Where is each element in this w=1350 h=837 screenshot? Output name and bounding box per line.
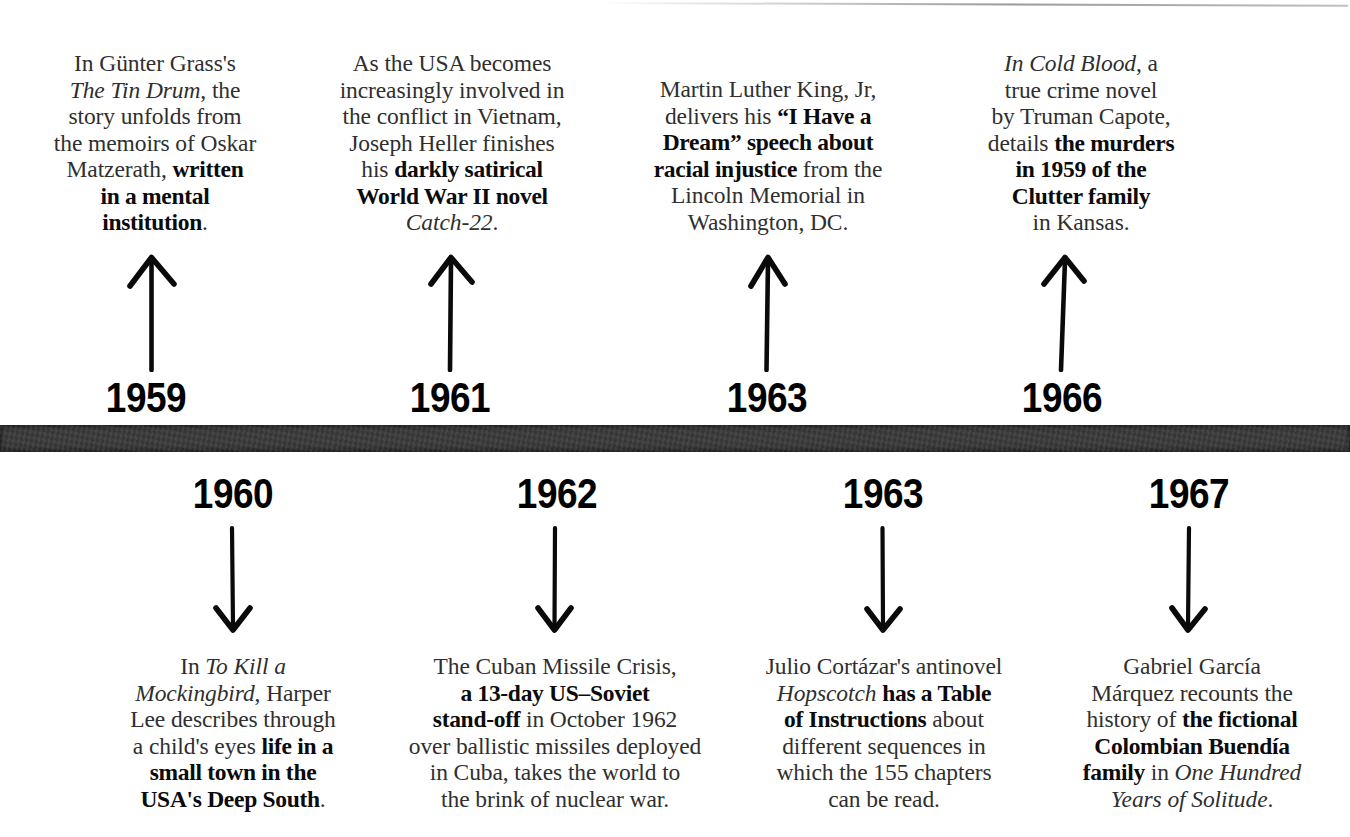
year-label-1959: 1959 — [93, 377, 199, 419]
up-arrow-icon-1963 — [740, 254, 796, 372]
down-arrow-icon-1967 — [1161, 524, 1217, 634]
entry-text-1959: In Günter Grass'sThe Tin Drum, thestory … — [30, 50, 280, 236]
entry-text-1967: Gabriel GarcíaMárquez recounts thehistor… — [1052, 653, 1332, 812]
entry-text-1963-below: Julio Cortázar's antinovelHopscotch has … — [748, 653, 1020, 812]
down-arrow-icon-1960 — [205, 524, 261, 634]
entry-text-1962: The Cuban Missile Crisis,a 13-day US–Sov… — [400, 653, 710, 812]
entry-text-1960: In To Kill aMockingbird, HarperLee descr… — [105, 653, 361, 812]
entry-text-1961: As the USA becomesincreasingly involved … — [318, 50, 586, 236]
entry-text-1963-above: Martin Luther King, Jr,delivers his “I H… — [630, 76, 906, 235]
year-label-1966: 1966 — [1009, 377, 1115, 419]
year-label-1967: 1967 — [1136, 473, 1242, 515]
year-label-1962: 1962 — [504, 473, 610, 515]
year-label-1960: 1960 — [180, 473, 286, 515]
year-label-1961: 1961 — [397, 377, 503, 419]
down-arrow-icon-1962 — [527, 524, 583, 634]
timeline-bar — [0, 425, 1350, 452]
up-arrow-icon-1959 — [124, 254, 180, 372]
year-label-1963-above: 1963 — [714, 377, 820, 419]
timeline-infographic: In Günter Grass'sThe Tin Drum, thestory … — [0, 0, 1350, 837]
up-arrow-icon-1966 — [1036, 254, 1092, 372]
page-scan-artifact — [600, 2, 1348, 7]
up-arrow-icon-1961 — [424, 254, 480, 372]
year-label-1963-below: 1963 — [830, 473, 936, 515]
down-arrow-icon-1963 — [855, 524, 911, 634]
entry-text-1966: In Cold Blood, atrue crime novelby Truma… — [950, 50, 1212, 236]
